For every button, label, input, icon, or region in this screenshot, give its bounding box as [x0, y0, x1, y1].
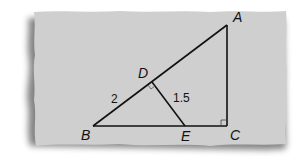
measure-BD: 2	[111, 92, 118, 106]
label-B: B	[81, 127, 90, 143]
measure-DE: 1.5	[173, 91, 190, 105]
geometry-diagram: A B C D E 2 1.5	[0, 0, 301, 161]
label-E: E	[181, 128, 191, 144]
label-D: D	[138, 65, 148, 81]
label-A: A	[232, 9, 242, 25]
label-C: C	[230, 127, 241, 143]
